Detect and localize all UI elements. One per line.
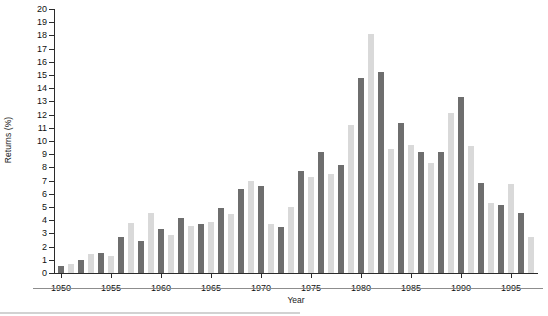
bar-1960 (158, 229, 164, 273)
bar-1962 (178, 218, 184, 273)
y-tick-label: 0 (42, 269, 47, 278)
y-tick-mark (49, 273, 54, 274)
bar-1984 (398, 123, 404, 273)
bar-1956 (118, 237, 124, 273)
bar-1989 (448, 113, 454, 273)
plot-area: 01234567891011121314151617181920 1950195… (54, 9, 538, 274)
bar-1985 (408, 145, 414, 273)
bar-1954 (98, 253, 104, 273)
bar-1971 (268, 224, 274, 273)
bar-1992 (478, 183, 484, 273)
x-tick-mark (161, 274, 162, 278)
bar-1959 (148, 213, 154, 273)
bar-1988 (438, 152, 444, 273)
bar-1994 (498, 205, 504, 273)
y-tick-row: 16 (54, 62, 55, 63)
y-axis-title: Returns (%) (0, 0, 16, 280)
y-tick-label: 9 (42, 150, 47, 159)
y-tick-mark (49, 75, 54, 76)
y-tick-row: 8 (54, 167, 55, 168)
bar-1951 (68, 264, 74, 273)
bar-1975 (308, 177, 314, 273)
y-tick-mark (49, 9, 54, 10)
bottom-frame-rule (33, 288, 543, 289)
y-tick-mark (49, 233, 54, 234)
bar-1966 (218, 208, 224, 273)
y-tick-label: 4 (42, 216, 47, 225)
bar-1978 (338, 165, 344, 273)
bar-1973 (288, 207, 294, 273)
caption-divider (0, 312, 300, 314)
bar-1955 (108, 256, 114, 273)
y-tick-row: 13 (54, 101, 55, 102)
bar-1968 (238, 189, 244, 273)
bar-1982 (378, 72, 384, 273)
bar-1963 (188, 226, 194, 273)
y-tick-row: 15 (54, 75, 55, 76)
y-tick-row: 14 (54, 88, 55, 89)
y-tick-row: 5 (54, 207, 55, 208)
bar-1997 (528, 237, 534, 273)
y-tick-label: 11 (38, 123, 47, 132)
y-tick-label: 12 (37, 110, 47, 119)
bar-1979 (348, 125, 354, 273)
y-tick-mark (49, 88, 54, 89)
x-tick-mark (261, 274, 262, 278)
y-tick-label: 14 (37, 84, 47, 93)
y-tick-mark (49, 141, 54, 142)
y-tick-label: 18 (37, 31, 47, 40)
y-tick-label: 6 (42, 189, 47, 198)
y-tick-row: 9 (54, 154, 55, 155)
y-tick-label: 19 (37, 18, 47, 27)
y-tick-label: 5 (42, 203, 47, 212)
x-axis-title: Year (54, 295, 538, 305)
y-tick-row: 4 (54, 220, 55, 221)
y-tick-label: 17 (37, 44, 47, 53)
y-tick-label: 15 (37, 71, 47, 80)
x-tick-mark (61, 274, 62, 278)
y-tick-mark (49, 154, 54, 155)
bar-1958 (138, 241, 144, 273)
y-tick-row: 10 (54, 141, 55, 142)
bar-1952 (78, 260, 84, 273)
y-tick-row: 11 (54, 128, 55, 129)
bar-1987 (428, 163, 434, 273)
x-tick-mark (111, 274, 112, 278)
y-tick-row: 12 (54, 115, 55, 116)
y-tick-label: 16 (37, 57, 47, 66)
bar-1993 (488, 203, 494, 273)
bar-1972 (278, 227, 284, 273)
bar-chart-figure: Returns (%) 0123456789101112131415161718… (0, 0, 548, 316)
y-tick-mark (49, 207, 54, 208)
bar-1957 (128, 223, 134, 273)
bar-1953 (88, 254, 94, 273)
bar-1981 (368, 34, 374, 273)
y-tick-mark (49, 101, 54, 102)
bar-1969 (248, 181, 254, 273)
bar-1991 (468, 146, 474, 273)
bar-1965 (208, 222, 214, 273)
bar-1986 (418, 152, 424, 273)
y-tick-row: 18 (54, 35, 55, 36)
y-tick-mark (49, 167, 54, 168)
bar-1964 (198, 224, 204, 273)
y-tick-mark (49, 35, 54, 36)
x-tick-mark (461, 274, 462, 278)
bar-1974 (298, 171, 304, 273)
y-tick-label: 3 (42, 229, 47, 238)
x-tick-mark (361, 274, 362, 278)
bar-1990 (458, 97, 464, 273)
bar-1950 (58, 266, 64, 273)
y-tick-mark (49, 220, 54, 221)
bar-1970 (258, 186, 264, 273)
y-tick-mark (49, 49, 54, 50)
y-tick-mark (49, 128, 54, 129)
bar-1961 (168, 235, 174, 273)
y-tick-label: 7 (42, 176, 47, 185)
y-tick-mark (49, 62, 54, 63)
y-tick-mark (49, 22, 54, 23)
y-tick-row: 0 (54, 273, 55, 274)
bar-1995 (508, 184, 514, 273)
y-tick-label: 8 (42, 163, 47, 172)
y-tick-label: 13 (37, 97, 47, 106)
